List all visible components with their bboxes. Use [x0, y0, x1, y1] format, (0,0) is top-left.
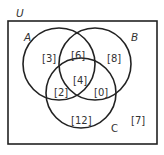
- set-b-label: B: [131, 31, 138, 43]
- set-c-label: C: [111, 123, 118, 134]
- region-outside: [7]: [131, 115, 145, 126]
- set-a-label: A: [23, 31, 31, 43]
- region-b-only: [8]: [107, 53, 121, 64]
- region-bc-only: [0]: [94, 87, 108, 98]
- universe-label: U: [16, 7, 24, 19]
- venn-diagram: U A B C [3] [6] [8] [4] [2] [0] [12] [7]: [0, 0, 164, 155]
- region-abc: [4]: [73, 75, 87, 86]
- region-ac-only: [2]: [54, 87, 68, 98]
- region-c-only: [12]: [71, 115, 92, 126]
- region-ab-only: [6]: [71, 50, 85, 61]
- region-a-only: [3]: [42, 53, 56, 64]
